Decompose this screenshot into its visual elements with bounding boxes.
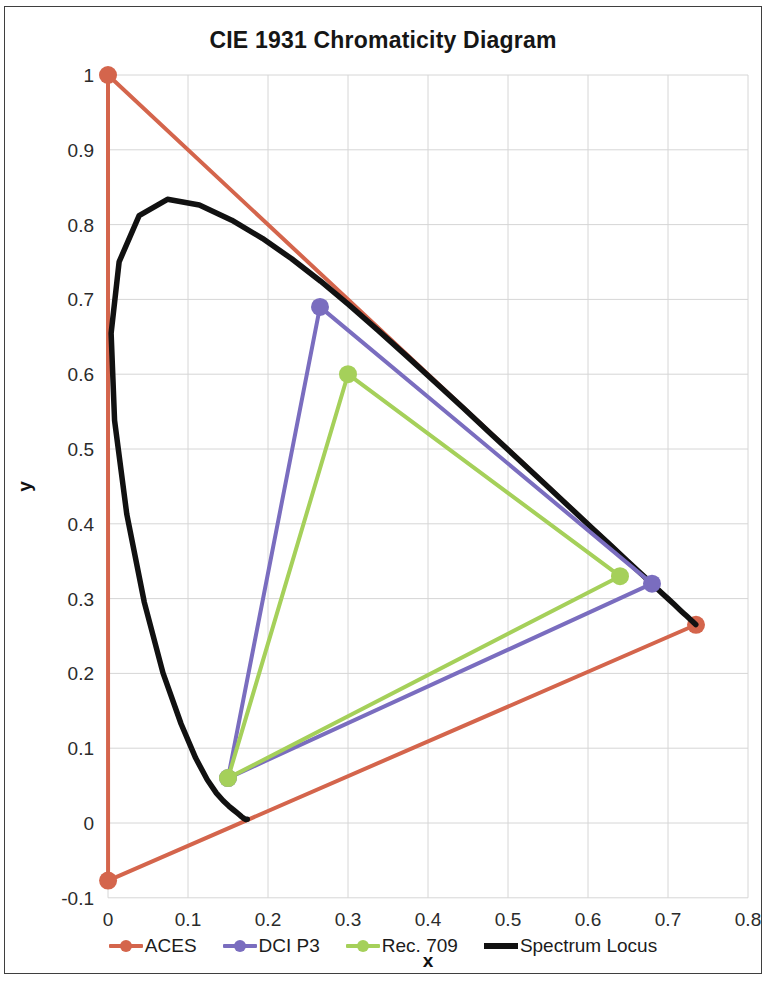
- legend-item-spectrum-locus[interactable]: Spectrum Locus: [484, 935, 657, 957]
- y-tick-label: 0.6: [68, 364, 94, 385]
- y-tick-label: 0.8: [68, 215, 94, 236]
- x-tick-label: 0.4: [415, 909, 442, 930]
- legend-label: Rec. 709: [382, 935, 458, 957]
- x-tick-label: 0.3: [335, 909, 361, 930]
- legend-swatch-icon: [484, 938, 518, 954]
- y-tick-label: 0.2: [68, 663, 94, 684]
- legend-item-dci-p3[interactable]: DCI P3: [223, 935, 320, 957]
- data-point-marker: [311, 298, 329, 316]
- data-point-marker: [219, 769, 237, 787]
- chart-frame: CIE 1931 Chromaticity Diagram 00.10.20.3…: [4, 6, 762, 974]
- legend-label: DCI P3: [259, 935, 320, 957]
- legend-item-rec-709[interactable]: Rec. 709: [346, 935, 458, 957]
- x-tick-label: 0.2: [255, 909, 281, 930]
- y-axis-title: y: [14, 481, 35, 492]
- y-tick-label: 0.7: [68, 289, 94, 310]
- data-point-marker: [339, 365, 357, 383]
- x-tick-label: 0.1: [175, 909, 201, 930]
- x-tick-label: 0.8: [735, 909, 761, 930]
- chromaticity-plot: 00.10.20.30.40.50.60.70.8-0.100.10.20.30…: [5, 7, 763, 975]
- series-aces: [99, 66, 705, 890]
- y-tick-label: 0.9: [68, 140, 94, 161]
- y-tick-label: 0.4: [68, 514, 95, 535]
- x-tick-label: 0: [103, 909, 114, 930]
- data-point-marker: [99, 66, 117, 84]
- legend-swatch-icon: [109, 938, 143, 954]
- x-tick-label: 0.6: [575, 909, 601, 930]
- series-rec-709: [219, 365, 629, 787]
- y-tick-label: 0.1: [68, 738, 94, 759]
- legend-item-aces[interactable]: ACES: [109, 935, 197, 957]
- y-tick-label: 0.5: [68, 439, 94, 460]
- series-dci-p3: [219, 298, 661, 787]
- legend-swatch-icon: [346, 938, 380, 954]
- chart-legend: ACESDCI P3Rec. 709Spectrum Locus: [5, 935, 761, 957]
- x-tick-label: 0.7: [655, 909, 681, 930]
- legend-label: ACES: [145, 935, 197, 957]
- series-spectrum-locus: [111, 199, 696, 819]
- legend-label: Spectrum Locus: [520, 935, 657, 957]
- y-tick-label: -0.1: [61, 888, 94, 909]
- legend-swatch-icon: [223, 938, 257, 954]
- data-point-marker: [643, 575, 661, 593]
- y-tick-label: 0: [83, 813, 94, 834]
- y-tick-label: 0.3: [68, 589, 94, 610]
- tick-labels: 00.10.20.30.40.50.60.70.8-0.100.10.20.30…: [61, 65, 761, 930]
- series-path: [228, 374, 620, 778]
- series-layer: [99, 66, 705, 890]
- data-point-marker: [99, 872, 117, 890]
- x-tick-label: 0.5: [495, 909, 521, 930]
- data-point-marker: [611, 567, 629, 585]
- series-path: [111, 199, 696, 819]
- y-tick-label: 1: [83, 65, 94, 86]
